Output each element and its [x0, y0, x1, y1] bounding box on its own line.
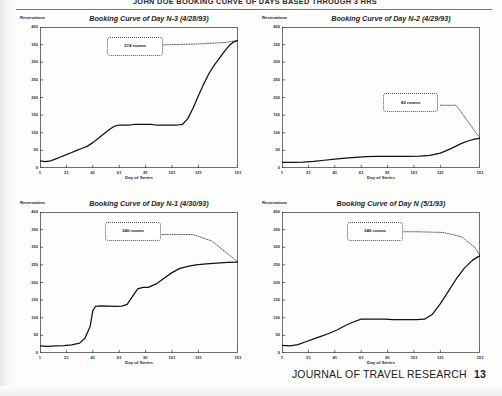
- y-tick-label: 100: [31, 131, 38, 135]
- x-axis-label: Day of Series: [40, 360, 238, 365]
- y-tick-label: 250: [273, 263, 280, 267]
- y-tick-label: 0: [278, 166, 280, 170]
- y-tick-label: 0: [36, 166, 38, 170]
- y-tick-label: 100: [273, 131, 280, 135]
- plot-area: 4003503002502001501005001214161811011211…: [282, 212, 480, 353]
- y-tick-label: 200: [31, 96, 38, 100]
- chart-canvas: [282, 27, 480, 168]
- chart-title: Booking Curve of Day N (5/1/93): [296, 199, 486, 208]
- y-tick-label: 100: [273, 316, 280, 320]
- data-series-line: [282, 256, 480, 346]
- scanned-journal-page: JOHN DOE BOOKING CURVE OF DAYS BASED THR…: [0, 0, 502, 396]
- y-tick-label: 250: [273, 78, 280, 82]
- plot-area: 4003503002502001501005001214161811011211…: [282, 27, 480, 168]
- y-tick-label: 400: [31, 25, 38, 29]
- y-tick-label: 300: [31, 60, 38, 64]
- running-head: JOHN DOE BOOKING CURVE OF DAYS BASED THR…: [60, 0, 450, 6]
- y-tick-label: 0: [36, 351, 38, 355]
- y-tick-label: 350: [31, 43, 38, 47]
- plot-area: 4003503002502001501005001214161811011211…: [40, 27, 238, 168]
- data-series-line: [40, 262, 238, 346]
- annotation-callout: 346 rooms: [347, 222, 402, 241]
- data-series-line: [40, 40, 238, 161]
- chart-panel-day-n-minus-3: Booking Curve of Day N-3 (4/28/93) Reser…: [14, 12, 250, 198]
- y-tick-label: 50: [34, 333, 38, 337]
- header-rule: [16, 9, 492, 10]
- y-tick-label: 150: [273, 113, 280, 117]
- x-axis-label: Day of Series: [282, 360, 480, 365]
- y-axis-label: Reservations: [262, 200, 287, 205]
- y-tick-label: 200: [31, 281, 38, 285]
- y-tick-label: 300: [273, 60, 280, 64]
- x-axis-label: Day of Series: [282, 175, 480, 180]
- annotation-callout: 82 rooms: [383, 93, 438, 112]
- data-series-line: [282, 138, 480, 162]
- y-tick-label: 150: [31, 298, 38, 302]
- footer-journal-name: JOURNAL OF TRAVEL RESEARCH: [292, 368, 467, 380]
- y-tick-label: 50: [276, 333, 280, 337]
- x-axis-label: Day of Series: [40, 175, 238, 180]
- y-tick-label: 150: [31, 113, 38, 117]
- y-tick-label: 350: [273, 228, 280, 232]
- scan-edge-shading-bottom: [0, 386, 502, 396]
- y-tick-label: 250: [31, 78, 38, 82]
- plot-frame: [283, 28, 480, 168]
- plot-area: 4003503002502001501005001214161811011211…: [40, 212, 238, 353]
- y-axis-label: Reservations: [20, 15, 45, 20]
- annotation-callout: 340 rooms: [105, 222, 160, 241]
- y-tick-label: 400: [273, 25, 280, 29]
- y-tick-label: 100: [31, 316, 38, 320]
- y-tick-label: 400: [273, 210, 280, 214]
- chart-panel-day-n-minus-1: Booking Curve of Day N-1 (4/30/93) Reser…: [14, 197, 250, 383]
- y-axis-label: Reservations: [20, 200, 45, 205]
- y-tick-label: 400: [31, 210, 38, 214]
- y-tick-label: 0: [278, 351, 280, 355]
- y-tick-label: 150: [273, 298, 280, 302]
- chart-panel-day-n: Booking Curve of Day N (5/1/93) Reservat…: [256, 197, 492, 383]
- chart-title: Booking Curve of Day N-2 (4/29/93): [296, 14, 486, 23]
- chart-panel-day-n-minus-2: Booking Curve of Day N-2 (4/29/93) Reser…: [256, 12, 492, 198]
- chart-title: Booking Curve of Day N-3 (4/28/93): [54, 14, 244, 23]
- y-tick-label: 300: [31, 245, 38, 249]
- y-tick-label: 300: [273, 245, 280, 249]
- y-axis-label: Reservations: [262, 15, 287, 20]
- scan-edge-shading-left: [0, 0, 14, 396]
- y-tick-label: 250: [31, 263, 38, 267]
- footer-page-number: 13: [474, 368, 486, 380]
- y-tick-label: 350: [273, 43, 280, 47]
- y-tick-label: 200: [273, 96, 280, 100]
- y-tick-label: 200: [273, 281, 280, 285]
- page-footer: JOURNAL OF TRAVEL RESEARCH13: [292, 368, 486, 380]
- data-series-line: [440, 105, 480, 138]
- y-tick-label: 50: [34, 148, 38, 152]
- annotation-callout: 374 rooms: [107, 37, 162, 56]
- y-tick-label: 350: [31, 228, 38, 232]
- chart-title: Booking Curve of Day N-1 (4/30/93): [54, 199, 244, 208]
- y-tick-label: 50: [276, 148, 280, 152]
